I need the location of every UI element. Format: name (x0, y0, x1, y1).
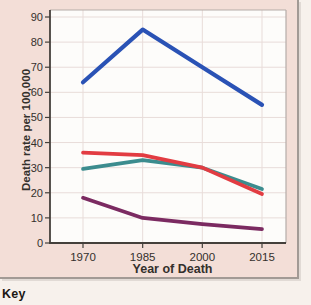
x-tick-label: 2015 (249, 251, 275, 263)
death-rate-line-chart: 01020304050607080901970198520002015Death… (0, 0, 297, 277)
y-tick-label: 90 (31, 11, 43, 23)
y-tick-label: 30 (31, 162, 43, 174)
y-tick-label: 40 (31, 137, 43, 149)
y-tick-label: 50 (31, 111, 43, 123)
x-axis-title: Year of Death (133, 262, 213, 276)
y-tick-label: 60 (31, 86, 43, 98)
x-tick-label: 1970 (70, 251, 96, 263)
y-tick-label: 70 (31, 61, 43, 73)
y-tick-label: 0 (37, 237, 43, 249)
figure: 01020304050607080901970198520002015Death… (0, 0, 299, 279)
page: 01020304050607080901970198520002015Death… (0, 0, 311, 305)
key-label: Key (2, 287, 26, 301)
y-tick-label: 20 (31, 187, 43, 199)
y-axis-title: Death rate per 100,000 (20, 69, 32, 191)
y-tick-label: 10 (31, 212, 43, 224)
y-tick-label: 80 (31, 36, 43, 48)
